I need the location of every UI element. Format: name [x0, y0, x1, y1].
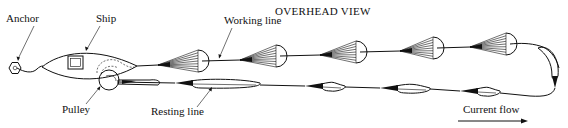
ship-cabin-inner — [71, 59, 81, 67]
ship — [42, 53, 137, 79]
open-parachute — [320, 41, 367, 63]
anchor-label: Anchor — [6, 12, 39, 24]
anchor-leader-arrowhead — [17, 57, 21, 62]
collapsed-parachute — [305, 82, 345, 91]
collapsed-canopy-fold — [478, 92, 496, 93]
ship-hull — [42, 53, 137, 79]
collapsed-shroud — [175, 80, 193, 86]
open-parachutes-group — [158, 33, 517, 72]
working-line-leader-line — [220, 28, 232, 56]
collapsed-canopy — [191, 79, 260, 88]
resting-line-leader-line — [197, 89, 211, 107]
turnaround-canopy — [538, 47, 558, 79]
collapsed-parachute — [380, 84, 430, 93]
turnaround-collapsed-parachute — [530, 46, 559, 96]
diagram-title: OVERHEAD VIEW — [275, 5, 371, 17]
anchor-ring-icon — [13, 66, 17, 70]
collapsed-canopy-fold — [398, 89, 426, 90]
working-line-label: Working line — [224, 14, 282, 26]
ship-leader-line — [87, 26, 100, 49]
resting-line-label: Resting line — [151, 105, 204, 117]
current-flow-arrowhead-icon — [521, 119, 528, 124]
anchor-leader-line — [18, 26, 34, 59]
current-flow-label: Current flow — [463, 103, 520, 115]
open-parachute — [240, 45, 287, 67]
collapsed-parachute — [460, 87, 500, 96]
collapsed-canopy — [321, 82, 345, 91]
pulley — [99, 70, 119, 90]
collapsed-parachutes-group — [118, 79, 500, 96]
overhead-view-diagram: OVERHEAD VIEW Anchor Ship Pulley Working… — [0, 0, 568, 128]
collapsed-shroud — [460, 88, 478, 94]
turnaround-shroud — [552, 76, 558, 88]
open-parachute — [470, 33, 517, 55]
collapsed-shroud — [305, 83, 323, 89]
parachute-shroud-line — [240, 51, 276, 61]
open-parachute — [158, 50, 209, 72]
ship-label: Ship — [96, 12, 117, 24]
collapsed-shroud — [380, 85, 398, 91]
pulley-leader-line — [86, 88, 99, 104]
collapsed-canopy — [396, 84, 430, 93]
collapsed-canopy-fold — [193, 84, 256, 85]
collapsed-canopy-fold — [323, 87, 341, 88]
turnaround-line-lower — [530, 88, 555, 96]
anchor — [9, 63, 43, 74]
collapsed-parachute — [175, 79, 260, 88]
collapsed-canopy — [476, 87, 500, 96]
working-line-leader-arrowhead — [219, 54, 222, 59]
anchor-hexagon-icon — [9, 63, 21, 74]
pulley-label: Pulley — [62, 103, 91, 115]
